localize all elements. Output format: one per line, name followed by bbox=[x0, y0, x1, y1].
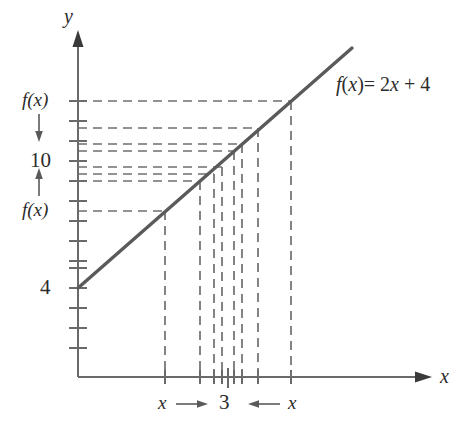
limit-graph-figure bbox=[0, 0, 465, 434]
equation-label: f(x)= 2x + 4 bbox=[336, 74, 430, 94]
y-axis-arrowhead bbox=[73, 30, 84, 47]
y-intercept-four-label: 4 bbox=[40, 277, 51, 298]
down-arrow-head bbox=[35, 131, 43, 142]
left-arrow-head bbox=[248, 400, 259, 407]
lower-fx-label: f(x) bbox=[22, 200, 48, 219]
right-arrow-head bbox=[197, 400, 208, 407]
function-line bbox=[78, 48, 352, 288]
x-value-three-label: 3 bbox=[219, 392, 230, 413]
vertical-dashed-guides bbox=[165, 101, 291, 377]
y-value-ten-label: 10 bbox=[30, 150, 51, 171]
left-x-label: x bbox=[158, 393, 166, 412]
right-x-label: x bbox=[288, 393, 296, 412]
y-axis-label: y bbox=[64, 6, 73, 26]
x-axis-arrowhead bbox=[415, 372, 432, 383]
x-axis-label: x bbox=[440, 366, 449, 386]
upper-fx-label: f(x) bbox=[22, 90, 48, 109]
